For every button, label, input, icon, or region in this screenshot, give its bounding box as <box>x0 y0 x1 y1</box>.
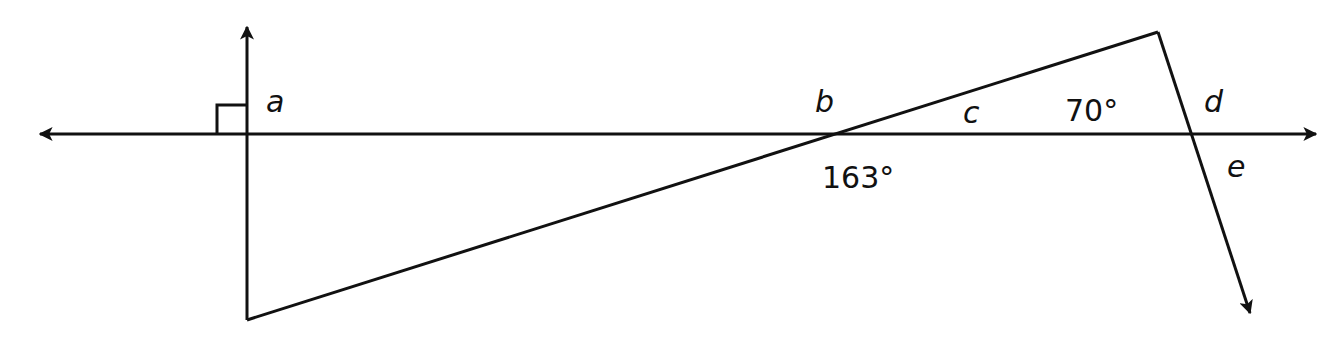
label-d: d <box>1204 84 1224 119</box>
label-angle-163: 163° <box>822 160 894 195</box>
label-a: a <box>266 84 284 119</box>
label-angle-70: 70° <box>1065 93 1118 128</box>
label-e: e <box>1227 149 1245 184</box>
label-c: c <box>963 95 980 130</box>
label-b: b <box>815 84 834 119</box>
angle-diagram: a b c 70° d e 163° <box>0 0 1329 350</box>
slanted-line <box>247 32 1158 320</box>
right-angle-mark <box>217 105 247 134</box>
